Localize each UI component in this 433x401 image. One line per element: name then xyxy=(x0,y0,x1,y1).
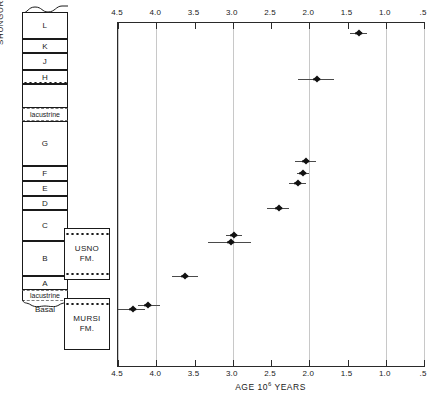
strat-member-label: G xyxy=(42,139,49,148)
data-point xyxy=(355,29,362,36)
x-tick-label: 3.0 xyxy=(219,8,245,17)
mursi-fm-name-line1: MURSI xyxy=(73,314,100,324)
tuff-marker-band-bottom xyxy=(64,272,110,276)
x-tick-top xyxy=(386,22,387,29)
strat-member-label: D xyxy=(42,199,48,208)
x-tick-label: 3.0 xyxy=(219,369,245,378)
x-tick-label: 2.5 xyxy=(257,369,283,378)
x-tick-label: 2.5 xyxy=(257,8,283,17)
gridline xyxy=(233,22,234,367)
data-point xyxy=(300,169,307,176)
x-tick-bottom xyxy=(233,360,234,367)
age-scatter-plot xyxy=(117,22,425,367)
x-tick-bottom xyxy=(424,360,425,367)
strat-member-label: A xyxy=(42,279,48,288)
strat-member-c: C xyxy=(22,210,68,241)
x-tick-label: 1.0 xyxy=(372,369,398,378)
strat-member-label: C xyxy=(42,221,48,230)
x-tick-label: 4.0 xyxy=(142,369,168,378)
strat-member-j: J xyxy=(22,53,68,70)
strat-member-e: E xyxy=(22,181,68,196)
x-tick-label: 2.0 xyxy=(295,8,321,17)
x-tick-label: 4.0 xyxy=(142,8,168,17)
gridline xyxy=(424,22,425,367)
x-tick-top xyxy=(118,22,119,29)
strat-member-label: B xyxy=(42,254,48,263)
x-tick-bottom xyxy=(271,360,272,367)
x-tick-top xyxy=(195,22,196,29)
x-tick-label: 3.5 xyxy=(181,8,207,17)
data-point xyxy=(130,305,137,312)
strat-member-d: D xyxy=(22,196,68,210)
x-tick-label: .5 xyxy=(410,369,433,378)
figure-canvas: LKJHlacustrineGFEDCBAlacustrine SHUNGURA… xyxy=(0,0,433,401)
usno-formation-box: USNO FM. xyxy=(64,228,110,280)
x-tick-label: 1.0 xyxy=(372,8,398,17)
x-tick-label: 1.5 xyxy=(334,8,360,17)
x-tick-label: .5 xyxy=(410,8,433,17)
axis-title-post: YEARS xyxy=(272,382,306,392)
strat-member-label: K xyxy=(42,42,48,51)
x-tick-label: 3.5 xyxy=(181,369,207,378)
strat-member-k: K xyxy=(22,39,68,53)
strat-member-label: F xyxy=(42,169,47,178)
data-point xyxy=(182,272,189,279)
stratigraphic-column: LKJHlacustrineGFEDCBAlacustrine xyxy=(22,12,68,300)
x-tick-bottom xyxy=(156,360,157,367)
usno-fm-name-line1: USNO xyxy=(75,244,99,254)
mursi-formation-box: MURSI FM. xyxy=(64,298,110,350)
x-tick-bottom xyxy=(118,360,119,367)
strat-member-label: J xyxy=(43,57,47,66)
data-point xyxy=(294,179,301,186)
x-tick-bottom xyxy=(309,360,310,367)
x-tick-top xyxy=(271,22,272,29)
strat-member-b: B xyxy=(22,241,68,276)
x-axis-title: AGE 106 YEARS xyxy=(117,381,424,392)
basal-label: Basal xyxy=(22,305,68,314)
strat-member-a: A xyxy=(22,276,68,290)
strat-member-f: F xyxy=(22,166,68,181)
tuff-marker-band-top xyxy=(64,232,110,236)
x-tick-label: 4.5 xyxy=(104,369,130,378)
axis-title-pre: AGE 10 xyxy=(235,382,268,392)
strat-member-g: G xyxy=(22,121,68,166)
strat-member-unlabeled xyxy=(22,84,68,108)
x-tick-label: 2.0 xyxy=(295,369,321,378)
strat-member-lacustrine: lacustrine xyxy=(22,108,68,121)
strat-member-label: L xyxy=(43,21,48,30)
data-point xyxy=(313,75,320,82)
x-tick-top xyxy=(424,22,425,29)
x-tick-top xyxy=(233,22,234,29)
gridline xyxy=(156,22,157,367)
data-point xyxy=(144,301,151,308)
x-tick-bottom xyxy=(195,360,196,367)
gridline xyxy=(118,22,119,367)
mursi-fm-name-line2: FM. xyxy=(80,324,95,334)
usno-fm-name-line2: FM. xyxy=(80,254,95,264)
x-tick-bottom xyxy=(386,360,387,367)
x-tick-label: 1.5 xyxy=(334,369,360,378)
x-tick-top xyxy=(348,22,349,29)
strat-member-label: E xyxy=(42,184,48,193)
x-tick-top xyxy=(156,22,157,29)
formation-name-label: SHUNGURA FORMATION xyxy=(0,0,5,62)
tuff-marker-band-top xyxy=(64,302,110,306)
gridline xyxy=(386,22,387,367)
x-tick-label: 4.5 xyxy=(104,8,130,17)
strat-member-l: L xyxy=(22,12,68,39)
x-tick-top xyxy=(309,22,310,29)
strat-member-label: lacustrine xyxy=(30,111,60,118)
strat-member-label: lacustrine xyxy=(30,292,60,299)
x-tick-bottom xyxy=(348,360,349,367)
formation-name-text: SHUNGURA FORMATION xyxy=(0,0,5,62)
data-point xyxy=(276,204,283,211)
gridline xyxy=(309,22,310,367)
